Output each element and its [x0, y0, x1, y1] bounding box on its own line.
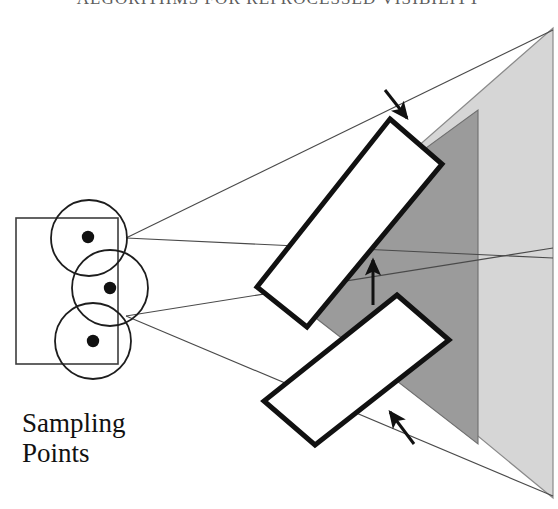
arrow-top	[385, 90, 407, 118]
caption-sampling-points: Sampling Points	[22, 378, 126, 498]
sampling-dot-2	[104, 282, 116, 294]
sampling-dot-1	[82, 231, 94, 243]
caption-line-2: Points	[22, 438, 126, 468]
arrow-bottom	[390, 412, 414, 444]
sampling-dot-3	[87, 335, 99, 347]
light-source-rectangle	[16, 218, 118, 364]
figure-root: ALGORITHMS FOR REPROCESSED VISIBILITY	[0, 0, 558, 509]
caption-line-1: Sampling	[22, 408, 126, 438]
